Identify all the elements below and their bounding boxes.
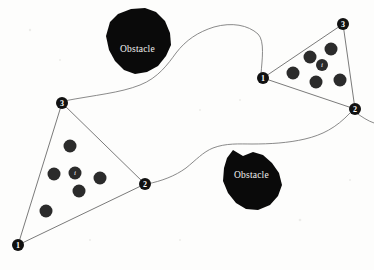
right-agent-b-dot[interactable] (325, 43, 338, 56)
left-node-1[interactable]: 1 (12, 239, 24, 251)
triangle-left-edges (18, 103, 145, 245)
right-agent-i[interactable]: i (316, 59, 328, 71)
left-agent-d-dot[interactable] (94, 172, 107, 185)
left-node-1-label: 1 (16, 241, 20, 250)
paper-speck (89, 239, 91, 241)
left-agent-b[interactable] (48, 168, 61, 181)
left-node-3[interactable]: 3 (56, 97, 68, 109)
scene-svg: ObstacleObstacle i123i123 (0, 0, 374, 270)
right-agent-b[interactable] (325, 43, 338, 56)
left-agent-a-dot[interactable] (64, 140, 77, 153)
left-agent-b-dot[interactable] (48, 168, 61, 181)
paper-speck (299, 219, 302, 222)
left-agent-d[interactable] (94, 172, 107, 185)
right-agent-a-dot[interactable] (304, 51, 317, 64)
paper-speck (59, 59, 61, 61)
obstacle-bottom-right: Obstacle (223, 150, 282, 210)
right-node-3[interactable]: 3 (337, 18, 349, 30)
paper-specks (29, 29, 351, 241)
obstacle-top-left: Obstacle (106, 8, 171, 74)
triangle-right: i123 (257, 18, 361, 115)
obstacle-top-left-label: Obstacle (120, 44, 155, 54)
right-agent-f[interactable] (334, 74, 347, 87)
right-agent-e-dot[interactable] (310, 76, 323, 89)
paper-speck (349, 179, 351, 181)
left-agent-i-label: i (74, 169, 76, 177)
paper-speck (179, 239, 181, 241)
right-node-2-label: 2 (353, 105, 357, 114)
paper-speck (29, 29, 31, 31)
obstacle-top-left-shape (106, 8, 171, 74)
right-agent-f-dot[interactable] (334, 74, 347, 87)
right-node-1-label: 1 (261, 74, 265, 83)
triangles-group: i123i123 (12, 18, 361, 251)
right-agent-e[interactable] (310, 76, 323, 89)
left-agent-f[interactable] (40, 205, 53, 218)
left-node-2[interactable]: 2 (139, 178, 151, 190)
left-agent-e[interactable] (73, 185, 86, 198)
obstacle-bottom-right-label: Obstacle (234, 170, 269, 180)
obstacle-bottom-right-shape (223, 150, 282, 210)
triangle-right-edges (263, 24, 355, 109)
left-agent-a[interactable] (64, 140, 77, 153)
left-node-2-label: 2 (143, 180, 147, 189)
paper-speck (239, 99, 241, 101)
right-node-1[interactable]: 1 (257, 72, 269, 84)
obstacles-group: ObstacleObstacle (106, 8, 282, 210)
paper-speck (199, 109, 201, 111)
left-agent-i[interactable]: i (69, 167, 82, 180)
right-agent-d[interactable] (287, 67, 300, 80)
figure-canvas: ObstacleObstacle i123i123 (0, 0, 374, 270)
right-node-2[interactable]: 2 (349, 103, 361, 115)
triangle-left: i123 (12, 97, 151, 251)
right-agent-a[interactable] (304, 51, 317, 64)
right-node-3-label: 3 (341, 20, 345, 29)
left-node-3-label: 3 (60, 99, 64, 108)
left-agent-f-dot[interactable] (40, 205, 53, 218)
left-agent-e-dot[interactable] (73, 185, 86, 198)
right-agent-i-label: i (321, 61, 323, 69)
right-agent-d-dot[interactable] (287, 67, 300, 80)
